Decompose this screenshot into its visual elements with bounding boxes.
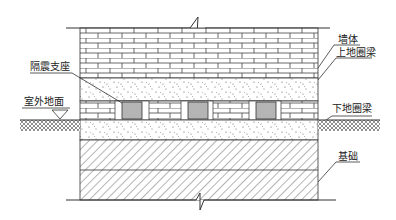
isolation-bearing-3: [256, 102, 276, 119]
label-isolation-bearing: 隔震支座: [30, 60, 70, 72]
leader-lower-ring-beam: [326, 116, 372, 120]
leader-upper-ring-beam: [318, 58, 372, 80]
lower-ring-beam: [80, 120, 318, 140]
leader-foundation: [318, 162, 360, 182]
isolation-bearing-2: [188, 102, 208, 119]
ground-left: [20, 120, 80, 131]
label-lower-ring-beam: 下地圈梁: [332, 102, 372, 114]
label-upper-ring-beam: 上地圈梁: [336, 46, 376, 58]
brick-wall: [80, 28, 318, 78]
ground-right: [318, 120, 380, 131]
isolation-section-diagram: 隔震支座 室外地面 墙体 上地圈梁 下地圈梁 基础: [0, 0, 396, 220]
label-outdoor-ground: 室外地面: [24, 95, 64, 107]
upper-ring-beam: [80, 78, 318, 101]
label-wall: 墙体: [338, 33, 358, 45]
ground-level-symbol: [52, 110, 68, 119]
label-foundation: 基础: [338, 150, 358, 162]
isolation-bearing-1: [122, 102, 142, 119]
